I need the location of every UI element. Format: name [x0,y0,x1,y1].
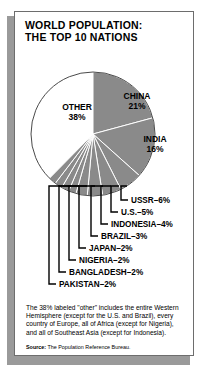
page-title-line-1: WORLD POPULATION: [25,20,185,32]
callout-label-bangladesh: BANGLADESH–2% [69,268,144,277]
callout-label-pakistan: PAKISTAN–2% [59,280,117,289]
callout-label-ussr: USSR–6% [131,196,171,205]
infographic-card: WORLD POPULATION: THE TOP 10 NATIONS OTH… [14,11,194,356]
pie-label-other: OTHER [62,102,92,112]
callout-label-nigeria: NIGERIA–2% [79,256,130,265]
callout-label-japan: JAPAN–2% [89,244,133,253]
page-title: WORLD POPULATION: THE TOP 10 NATIONS [25,20,185,43]
source-text: The Population Reference Bureau. [47,344,130,350]
pie-chart: OTHER38%CHINA21%INDIA16% USSR–6%U.S.–5%I… [15,42,193,297]
footnote-text: The 38% labeled "other" includes the ent… [26,304,184,337]
callout-label-us: U.S.–5% [121,208,154,217]
source-line: Source: The Population Reference Bureau. [26,344,186,350]
pie-value-other: 38% [68,112,85,122]
callout-label-brazil: BRAZIL–3% [101,232,148,241]
callout-label-indonesia: INDONESIA–4% [111,220,174,229]
leader-line-nigeria [69,186,87,260]
source-label: Source: [26,344,46,350]
pie-label-india: INDIA [143,134,166,144]
pie-value-china: 21% [128,101,145,111]
pie-value-india: 16% [146,144,163,154]
pie-chart-svg: OTHER38%CHINA21%INDIA16% USSR–6%U.S.–5%I… [15,42,193,297]
callout-labels: USSR–6%U.S.–5%INDONESIA–4%BRAZIL–3%JAPAN… [59,196,174,289]
infographic-root: WORLD POPULATION: THE TOP 10 NATIONS OTH… [0,0,201,372]
pie-label-china: CHINA [124,91,151,101]
leader-line-pakistan [49,186,71,284]
